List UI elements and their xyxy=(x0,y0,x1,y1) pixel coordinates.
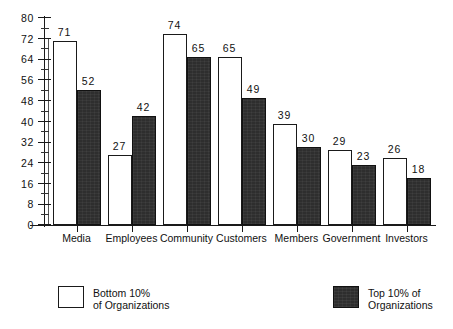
bar xyxy=(163,34,187,225)
y-axis-inner-line xyxy=(48,39,49,226)
x-group-tick xyxy=(242,225,243,232)
y-tick-major xyxy=(38,38,51,39)
bar-value-label: 71 xyxy=(47,27,83,38)
y-tick-label-wrap: 40 xyxy=(8,117,34,127)
bar-chart: 08162432404856647280 7152274274656549393… xyxy=(0,0,453,329)
y-tick-major xyxy=(38,59,51,60)
bar-value-label: 52 xyxy=(71,76,107,87)
y-tick-minor xyxy=(41,193,49,194)
bar-value-label: 49 xyxy=(236,84,272,95)
y-tick-label-wrap: 64 xyxy=(8,54,34,64)
y-tick-label: 64 xyxy=(10,54,34,65)
x-axis-line xyxy=(30,225,436,226)
bar xyxy=(242,98,266,225)
x-group-tick xyxy=(297,225,298,232)
legend-swatch-top-10-icon xyxy=(333,286,359,308)
bar-value-label: 18 xyxy=(401,164,437,175)
y-tick-label-wrap: 24 xyxy=(8,158,34,168)
y-tick-minor xyxy=(41,111,49,112)
y-tick-label-wrap: 8 xyxy=(8,199,34,209)
y-tick-label: 80 xyxy=(10,13,34,24)
y-tick-label: 8 xyxy=(10,199,34,210)
legend-label-bottom-10-line2: of Organizations xyxy=(93,299,169,311)
y-tick-minor xyxy=(41,69,49,70)
x-group-tick xyxy=(407,225,408,232)
x-group-tick xyxy=(77,225,78,232)
bar-value-label: 42 xyxy=(126,102,162,113)
bar xyxy=(77,90,101,225)
y-tick-major xyxy=(38,121,51,122)
y-tick-minor xyxy=(41,152,49,153)
y-tick-major xyxy=(38,162,51,163)
y-tick-label: 56 xyxy=(10,75,34,86)
legend-swatch-bottom-10-icon xyxy=(58,286,84,308)
legend-label-bottom-10: Bottom 10% of Organizations xyxy=(93,286,169,311)
y-tick-minor xyxy=(41,214,49,215)
y-tick-major xyxy=(38,17,51,18)
x-group-tick xyxy=(187,225,188,232)
legend-item-bottom-10[interactable]: Bottom 10% of Organizations xyxy=(58,286,169,311)
legend-label-bottom-10-line1: Bottom 10% xyxy=(93,287,150,299)
legend-item-top-10[interactable]: Top 10% of Organizations xyxy=(333,286,433,311)
bar xyxy=(218,57,242,225)
y-tick-label: 24 xyxy=(10,158,34,169)
y-tick-major xyxy=(38,142,51,143)
x-axis-category-label: Investors xyxy=(369,233,445,244)
y-tick-label: 16 xyxy=(10,179,34,190)
y-tick-major xyxy=(38,79,51,80)
bar xyxy=(352,165,376,225)
y-tick-minor xyxy=(41,131,49,132)
y-tick-minor xyxy=(41,173,49,174)
x-group-tick xyxy=(132,225,133,232)
bar-value-label: 26 xyxy=(377,144,413,155)
y-tick-label: 48 xyxy=(10,96,34,107)
y-tick-label-wrap: 16 xyxy=(8,179,34,189)
legend-label-top-10-line2: Organizations xyxy=(368,299,433,311)
bar xyxy=(53,41,77,225)
y-tick-label-wrap: 48 xyxy=(8,96,34,106)
y-tick-label: 32 xyxy=(10,137,34,148)
x-group-tick xyxy=(352,225,353,232)
y-tick-label-wrap: 80 xyxy=(8,13,34,23)
y-tick-label: 40 xyxy=(10,117,34,128)
bar-value-label: 39 xyxy=(267,110,303,121)
y-tick-minor xyxy=(41,48,49,49)
y-tick-label-wrap: 32 xyxy=(8,137,34,147)
y-tick-label-wrap: 56 xyxy=(8,75,34,85)
bar xyxy=(407,178,431,225)
y-tick-major xyxy=(38,183,51,184)
y-tick-label: 72 xyxy=(10,34,34,45)
y-tick-label-wrap: 72 xyxy=(8,34,34,44)
bar xyxy=(132,116,156,225)
legend-label-top-10: Top 10% of Organizations xyxy=(368,286,433,311)
bar-value-label: 65 xyxy=(212,43,248,54)
y-tick-major xyxy=(38,204,51,205)
bar-value-label: 74 xyxy=(157,20,193,31)
bar xyxy=(108,155,132,225)
y-tick-minor xyxy=(41,90,49,91)
y-tick-major xyxy=(38,100,51,101)
legend-label-top-10-line1: Top 10% of xyxy=(368,287,421,299)
bar xyxy=(297,147,321,225)
bar xyxy=(187,57,211,225)
bar-value-label: 29 xyxy=(322,136,358,147)
